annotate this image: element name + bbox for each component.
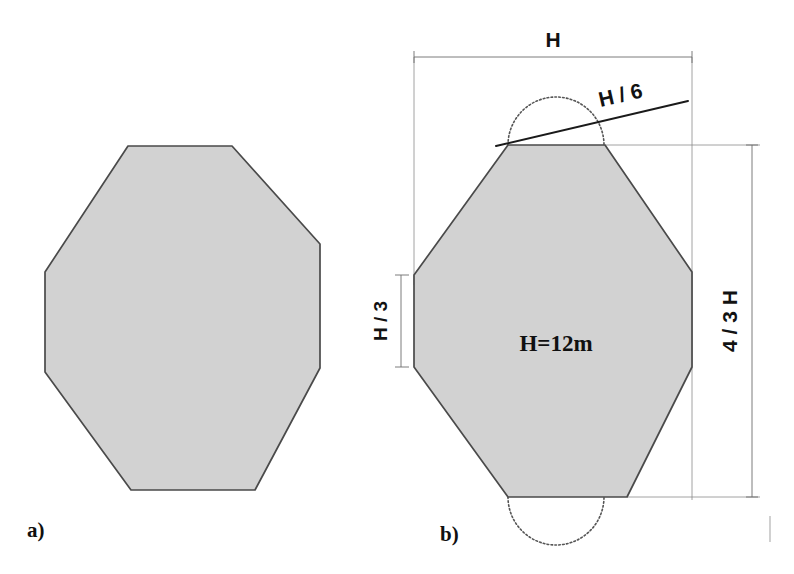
panel-a-group <box>45 146 320 490</box>
scale-note-label: H=12m <box>519 331 592 356</box>
height-dimension-label: 4 / 3 H <box>718 290 741 352</box>
width-dimension-label: H <box>545 28 560 51</box>
top-semicircle-dotted <box>508 97 604 145</box>
panel-label-b: b) <box>440 522 459 546</box>
height-dimension: 4 / 3 H <box>718 145 758 497</box>
notch-leader: H / 6 <box>496 78 688 146</box>
octagon-plain <box>45 146 320 490</box>
panel-b-group: H 4 / 3 H H / 3 H / 6 H=12 <box>370 28 760 545</box>
notch-dimension-label: H / 6 <box>596 78 644 110</box>
width-dimension: H <box>414 28 692 63</box>
side-dimension: H / 3 <box>370 275 409 367</box>
bottom-semicircle-dotted <box>508 497 604 545</box>
side-dimension-label: H / 3 <box>370 301 391 341</box>
technical-drawing-svg: H 4 / 3 H H / 3 H / 6 H=12 <box>0 0 794 574</box>
figure-container: H 4 / 3 H H / 3 H / 6 H=12 <box>0 0 794 574</box>
notch-leader-line <box>496 101 688 146</box>
panel-label-a: a) <box>27 518 45 542</box>
octagon-dimensioned <box>414 145 692 497</box>
